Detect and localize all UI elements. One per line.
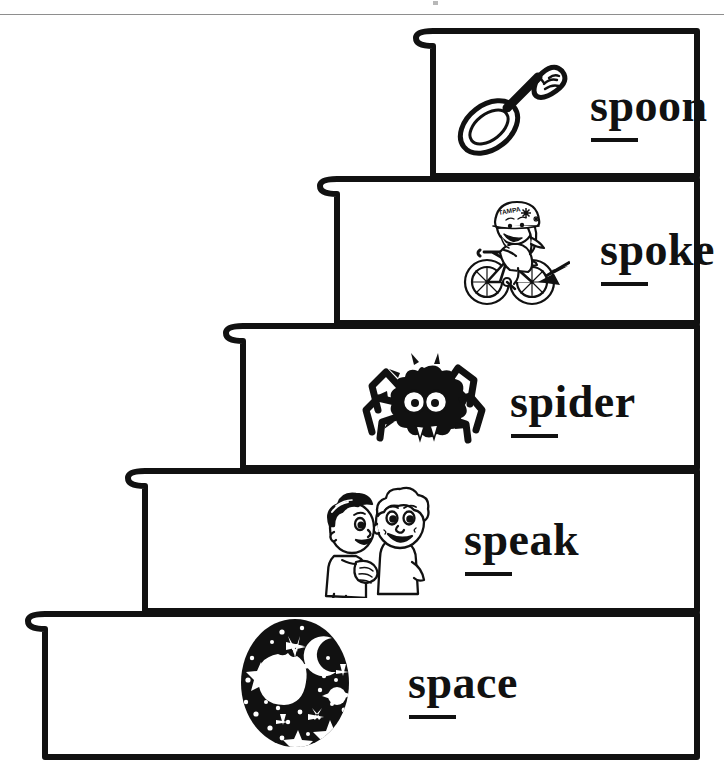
word-speak: speak <box>464 517 579 563</box>
step-row-spider: spider <box>358 352 658 452</box>
outer-space-icon <box>236 618 354 748</box>
word-spoke-wrapper: spoke <box>600 227 715 273</box>
worksheet-page: spoon <box>0 0 724 781</box>
step-row-spoke: TAMPA spoke <box>460 190 710 310</box>
two-children-speaking-icon <box>312 482 438 598</box>
digraph-underline-space <box>409 715 456 719</box>
spoon-icon <box>452 51 574 161</box>
digraph-underline-spider <box>511 434 558 438</box>
word-space-wrapper: space <box>408 660 518 706</box>
step-row-space: space <box>236 618 556 748</box>
word-speak-wrapper: speak <box>464 517 579 563</box>
bicycle-spoke-icon: TAMPA <box>460 190 570 310</box>
step-row-speak: speak <box>312 482 612 598</box>
spider-icon <box>358 352 486 452</box>
step-row-spoon: spoon <box>452 48 702 164</box>
digraph-underline-spoke <box>601 282 648 286</box>
digraph-underline-speak <box>465 572 512 576</box>
word-spoon-wrapper: spoon <box>590 83 708 129</box>
word-space: space <box>408 660 518 706</box>
word-spoon: spoon <box>590 83 708 129</box>
word-spider: spider <box>510 379 636 425</box>
digraph-underline-spoon <box>591 138 638 142</box>
word-spider-wrapper: spider <box>510 379 636 425</box>
word-spoke: spoke <box>600 227 715 273</box>
